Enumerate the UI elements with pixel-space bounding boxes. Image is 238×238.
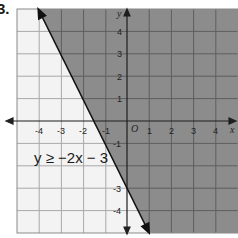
x-tick-label: -2 <box>79 126 87 136</box>
x-tick-label: -1 <box>102 126 110 136</box>
y-tick-label: 1 <box>117 94 122 104</box>
inequality-label: y ≥ −2x − 3 <box>34 149 108 166</box>
x-tick-label: 3 <box>191 126 196 136</box>
y-tick-label: 4 <box>117 27 122 37</box>
x-tick-label: 2 <box>169 126 174 136</box>
x-axis-label: x <box>229 124 235 135</box>
inequality-graph: -4 -3 -2 -1 1 2 3 4 x 4 3 2 1 -1 -3 -4 y… <box>0 0 238 238</box>
y-tick-label: -3 <box>113 184 121 194</box>
x-tick-label: 4 <box>213 126 218 136</box>
y-tick-label: -4 <box>113 206 121 216</box>
y-axis-label: y <box>116 8 122 19</box>
y-tick-label: 2 <box>117 72 122 82</box>
y-tick-label: 3 <box>117 49 122 59</box>
x-tick-label: -3 <box>57 126 65 136</box>
y-tick-label: -1 <box>113 139 121 149</box>
origin-label: O <box>131 123 138 134</box>
x-tick-label: 1 <box>147 126 152 136</box>
x-tick-label: -4 <box>35 126 43 136</box>
